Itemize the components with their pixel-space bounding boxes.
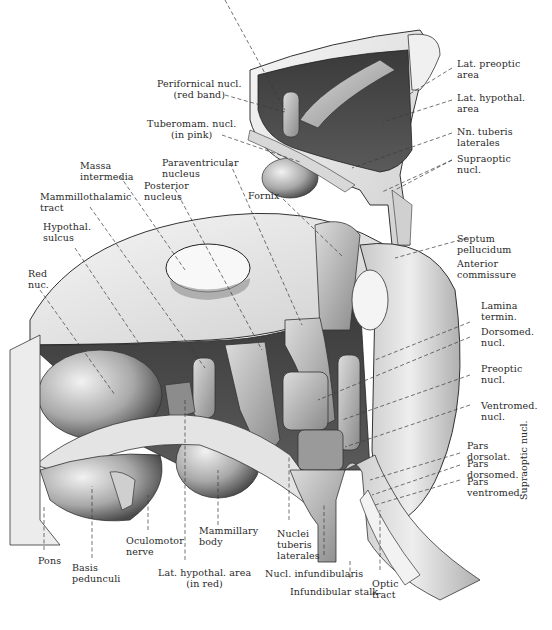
label-pons: Pons <box>38 555 61 566</box>
label-massa-intermedia: Massa intermedia <box>80 160 134 182</box>
label-lateral-preoptic-area: Lat. preoptic area <box>457 58 520 80</box>
label-fornix: Fornix <box>248 190 279 201</box>
inset-lateral-view <box>248 30 440 245</box>
label-septum-pellucidum: Septum pellucidum <box>457 233 511 255</box>
label-optic-tract: Optic tract <box>372 578 399 600</box>
label-dorsomedial-nucleus: Dorsomed. nucl. <box>481 326 534 348</box>
label-pars-ventromedialis: Pars ventromed. <box>467 476 523 498</box>
label-oculomotor-nerve: Oculomotor nerve <box>126 535 184 557</box>
label-lamina-terminalis: Lamina termin. <box>481 300 517 322</box>
label-infundibular-stalk: Infundibular stalk <box>290 586 378 597</box>
label-nucleus-infundibularis: Nucl. infundibularis <box>265 568 363 579</box>
label-mammillothalamic-tract: Mammillothalamic tract <box>40 191 132 213</box>
label-red-nucleus: Red nuc. <box>28 268 49 290</box>
label-perifornical-nucleus: Perifornical nucl. (red band) <box>157 78 242 100</box>
label-lateral-hypothalamic-area: Lat. hypothal. area (in red) <box>158 567 251 589</box>
label-mammillary-body: Mammillary body <box>199 525 258 547</box>
hypothalamus-illustration: Perifornical nucl. (red band) Tuberomam.… <box>0 0 552 630</box>
label-tuberomammillary-nucleus: Tuberomam. nucl. (in pink) <box>147 118 236 140</box>
label-ventromedial-nucleus: Ventromed. nucl. <box>481 400 538 422</box>
label-paraventricular-nucleus: Paraventricular nucleus <box>162 157 239 179</box>
label-preoptic-nucleus: Preoptic nucl. <box>481 363 522 385</box>
label-anterior-commissure: Anterior commissure <box>457 258 516 280</box>
label-nuclei-tuberis-laterales: Nuclei tuberis laterales <box>277 528 320 561</box>
label-supraoptic-nucleus-inset: Supraoptic nucl. <box>457 153 511 175</box>
label-basis-pedunculi: Basis pedunculi <box>72 562 120 584</box>
label-hypothalamic-sulcus: Hypothal. sulcus <box>43 221 91 243</box>
label-posterior-nucleus: Posterior nucleus <box>144 180 189 202</box>
label-supraoptic-nucleus-vertical: Supraoptic nucl. <box>518 420 529 500</box>
label-nn-tuberis-laterales: Nn. tuberis laterales <box>457 126 513 148</box>
label-lateral-hypothalamic-area-inset: Lat. hypothal. area <box>457 92 525 114</box>
